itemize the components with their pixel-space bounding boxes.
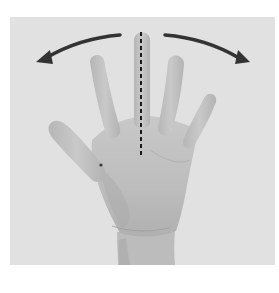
- pinky-finger: [183, 94, 216, 149]
- hand-illustration: [0, 0, 279, 293]
- hand-abduction-figure: [0, 0, 279, 293]
- index-finger: [90, 55, 120, 138]
- left-arrow-icon: [36, 35, 120, 64]
